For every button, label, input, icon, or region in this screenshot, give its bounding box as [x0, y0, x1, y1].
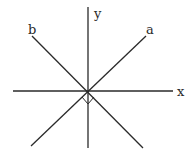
x-axis-label: x: [177, 84, 185, 99]
coordinate-diagram: y b a x: [0, 0, 194, 160]
y-axis-label: y: [93, 6, 102, 21]
line-a-label: a: [146, 22, 154, 37]
line-b-label: b: [28, 22, 36, 37]
